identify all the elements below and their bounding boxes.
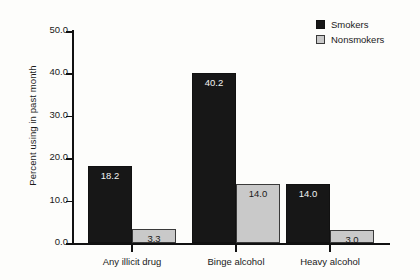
legend-item-smokers: Smokers — [316, 18, 384, 31]
bar-nonsmokers-1: 14.0 — [236, 184, 280, 243]
y-axis-tick-label: 20.0 — [50, 151, 69, 162]
bar-value-label: 40.2 — [193, 78, 235, 88]
bar-smokers-2: 14.0 — [286, 184, 330, 243]
legend-item-nonsmokers: Nonsmokers — [316, 33, 384, 46]
y-axis-line — [72, 30, 74, 244]
legend-item-label: Nonsmokers — [331, 34, 384, 45]
y-axis-tick-label: 50.0 — [50, 24, 69, 35]
bar-smokers-1: 40.2 — [192, 73, 236, 243]
y-axis-tick-label: 0.0 — [55, 236, 68, 247]
legend-item-label: Smokers — [331, 19, 368, 30]
y-axis-title: Percent using in past month — [27, 31, 38, 221]
nonsmokers-swatch — [316, 35, 325, 44]
bar-smokers-0: 18.2 — [88, 166, 132, 243]
x-axis-tick-mark — [329, 244, 331, 252]
y-axis-tick-mark — [66, 31, 73, 33]
x-axis-category-label: Any illicit drug — [103, 256, 162, 267]
bar-value-label: 14.0 — [237, 189, 279, 199]
bar-chart: Percent using in past month 0.010.020.03… — [0, 0, 420, 280]
bar-value-label: 14.0 — [287, 189, 329, 199]
bar-value-label: 3.0 — [331, 235, 373, 245]
y-axis-tick-mark — [66, 116, 73, 118]
x-axis-category-label: Heavy alcohol — [300, 256, 360, 267]
smokers-swatch — [316, 20, 325, 29]
bar-value-label: 3.3 — [133, 234, 175, 244]
x-axis-tick-mark — [131, 244, 133, 252]
bar-nonsmokers-0: 3.3 — [132, 229, 176, 243]
y-axis-tick-label: 40.0 — [50, 66, 69, 77]
x-axis-tick-mark — [235, 244, 237, 252]
y-axis-tick-label: 30.0 — [50, 109, 69, 120]
y-axis-tick-mark — [66, 201, 73, 203]
y-axis-tick-mark — [66, 158, 73, 160]
bar-nonsmokers-2: 3.0 — [330, 230, 374, 243]
y-axis-tick-mark — [66, 73, 73, 75]
y-axis-tick-label: 10.0 — [50, 194, 69, 205]
chart-legend: SmokersNonsmokers — [316, 18, 384, 48]
bar-value-label: 18.2 — [89, 171, 131, 181]
x-axis-category-label: Binge alcohol — [207, 256, 264, 267]
